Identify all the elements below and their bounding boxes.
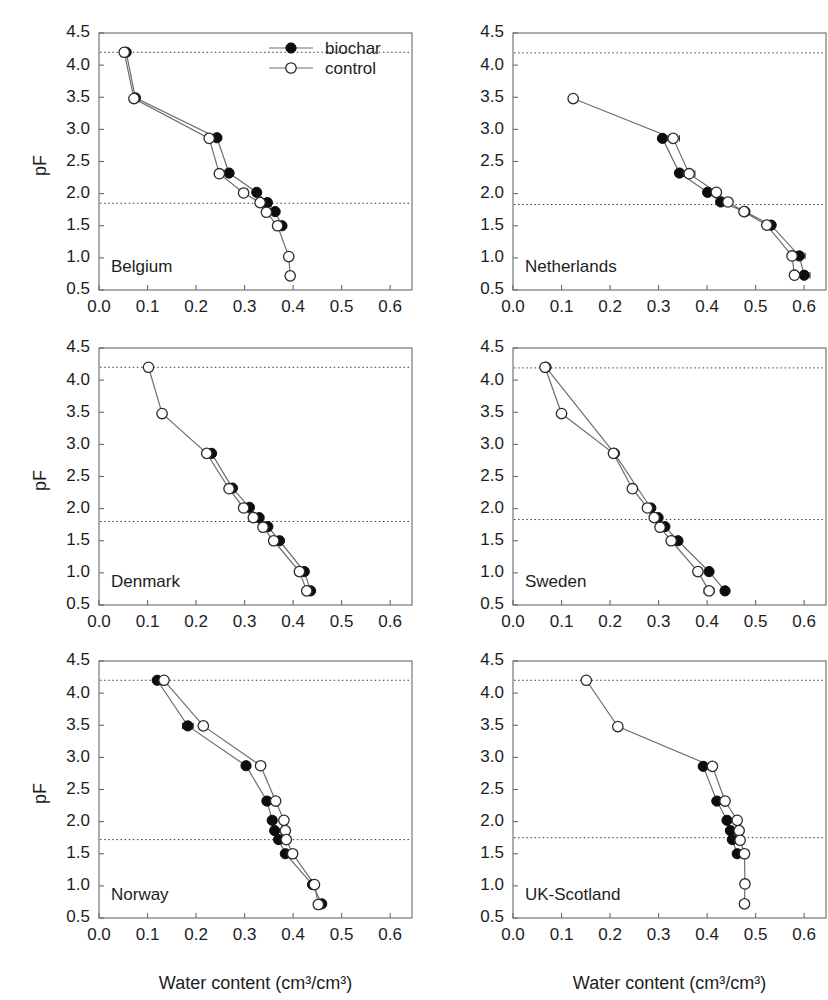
data-point-control[interactable] xyxy=(261,207,271,217)
data-point-control[interactable] xyxy=(159,675,169,685)
data-point-control[interactable] xyxy=(540,362,550,372)
data-point-control[interactable] xyxy=(642,503,652,513)
series-line-biochar xyxy=(546,367,725,591)
data-point-control[interactable] xyxy=(613,721,623,731)
data-point-control[interactable] xyxy=(627,484,637,494)
y-tick-label: 1.5 xyxy=(66,215,90,234)
data-point-control[interactable] xyxy=(294,566,304,576)
data-point-control[interactable] xyxy=(255,197,265,207)
data-point-control[interactable] xyxy=(258,522,268,532)
y-tick-label: 3.0 xyxy=(66,434,90,453)
x-tick-label: 0.1 xyxy=(550,297,574,316)
data-point-control[interactable] xyxy=(270,796,280,806)
panel-denmark: 0.00.10.20.30.40.50.60.51.01.52.02.53.03… xyxy=(37,338,424,645)
x-tick-label: 0.5 xyxy=(744,612,768,631)
x-tick-label: 0.4 xyxy=(695,925,719,944)
data-point-control[interactable] xyxy=(313,899,323,909)
data-point-biochar[interactable] xyxy=(267,815,277,825)
data-point-control[interactable] xyxy=(684,169,694,179)
data-point-control[interactable] xyxy=(255,761,265,771)
y-tick-label: 2.0 xyxy=(480,811,504,830)
y-tick-label: 1.0 xyxy=(480,247,504,266)
data-point-control[interactable] xyxy=(204,133,214,143)
data-point-control[interactable] xyxy=(666,536,676,546)
data-point-biochar[interactable] xyxy=(657,133,667,143)
y-tick-label: 1.5 xyxy=(66,843,90,862)
data-point-biochar[interactable] xyxy=(722,815,732,825)
series-line-control xyxy=(545,367,709,591)
data-point-control[interactable] xyxy=(309,879,319,889)
data-point-control[interactable] xyxy=(693,566,703,576)
data-point-control[interactable] xyxy=(287,849,297,859)
y-tick-label: 3.5 xyxy=(480,402,504,421)
data-point-control[interactable] xyxy=(787,251,797,261)
x-tick-label: 0.2 xyxy=(598,297,622,316)
data-point-control[interactable] xyxy=(740,879,750,889)
data-point-control[interactable] xyxy=(279,815,289,825)
x-tick-label: 0.0 xyxy=(501,925,525,944)
data-point-control[interactable] xyxy=(202,448,212,458)
plot-area-belgium: 0.00.10.20.30.40.50.60.51.01.52.02.53.03… xyxy=(37,23,424,330)
data-point-biochar[interactable] xyxy=(704,566,714,576)
data-point-control[interactable] xyxy=(581,675,591,685)
data-point-control[interactable] xyxy=(157,408,167,418)
data-point-biochar[interactable] xyxy=(720,586,730,596)
data-point-control[interactable] xyxy=(732,815,742,825)
data-point-control[interactable] xyxy=(734,825,744,835)
data-point-control[interactable] xyxy=(723,197,733,207)
data-point-control[interactable] xyxy=(739,899,749,909)
data-point-control[interactable] xyxy=(655,522,665,532)
plot-frame xyxy=(99,348,412,605)
x-tick-label: 0.6 xyxy=(378,612,402,631)
data-point-control[interactable] xyxy=(739,206,749,216)
data-point-control[interactable] xyxy=(302,586,312,596)
x-tick-label: 0.1 xyxy=(550,925,574,944)
y-tick-label: 2.5 xyxy=(66,779,90,798)
data-point-biochar[interactable] xyxy=(241,761,251,771)
data-point-control[interactable] xyxy=(281,834,291,844)
data-point-control[interactable] xyxy=(272,221,282,231)
data-point-control[interactable] xyxy=(711,187,721,197)
data-point-control[interactable] xyxy=(704,586,714,596)
data-point-control[interactable] xyxy=(224,484,234,494)
data-point-control[interactable] xyxy=(248,512,258,522)
data-point-control[interactable] xyxy=(789,270,799,280)
data-point-control[interactable] xyxy=(556,408,566,418)
data-point-control[interactable] xyxy=(269,536,279,546)
panel-title: Denmark xyxy=(111,572,180,591)
y-tick-label: 0.5 xyxy=(66,907,90,926)
data-point-control[interactable] xyxy=(707,761,717,771)
plot-frame xyxy=(513,33,826,290)
y-tick-label: 1.0 xyxy=(480,562,504,581)
panel-title: Netherlands xyxy=(525,257,617,276)
data-point-control[interactable] xyxy=(568,93,578,103)
data-point-control[interactable] xyxy=(198,721,208,731)
data-point-control[interactable] xyxy=(739,849,749,859)
data-point-control[interactable] xyxy=(720,796,730,806)
data-point-control[interactable] xyxy=(762,220,772,230)
data-point-control[interactable] xyxy=(649,512,659,522)
data-point-control[interactable] xyxy=(284,251,294,261)
data-point-control[interactable] xyxy=(214,169,224,179)
data-point-biochar[interactable] xyxy=(183,721,193,731)
plot-area-denmark: 0.00.10.20.30.40.50.60.51.01.52.02.53.03… xyxy=(37,338,424,645)
data-point-control[interactable] xyxy=(238,503,248,513)
data-point-biochar[interactable] xyxy=(799,270,809,280)
data-point-control[interactable] xyxy=(129,93,139,103)
y-tick-label: 4.5 xyxy=(480,338,504,356)
data-point-biochar[interactable] xyxy=(224,168,234,178)
data-point-control[interactable] xyxy=(238,188,248,198)
data-point-control[interactable] xyxy=(143,362,153,372)
x-tick-label: 0.6 xyxy=(378,925,402,944)
y-tick-label: 1.0 xyxy=(66,875,90,894)
data-point-control[interactable] xyxy=(285,271,295,281)
panel-title: Sweden xyxy=(525,572,586,591)
y-tick-label: 4.0 xyxy=(480,683,504,702)
data-point-control[interactable] xyxy=(668,133,678,143)
data-point-biochar[interactable] xyxy=(252,187,262,197)
data-point-control[interactable] xyxy=(608,448,618,458)
x-tick-label: 0.5 xyxy=(744,297,768,316)
data-point-control[interactable] xyxy=(119,47,129,57)
data-point-control[interactable] xyxy=(735,835,745,845)
panel-title: Norway xyxy=(111,885,169,904)
